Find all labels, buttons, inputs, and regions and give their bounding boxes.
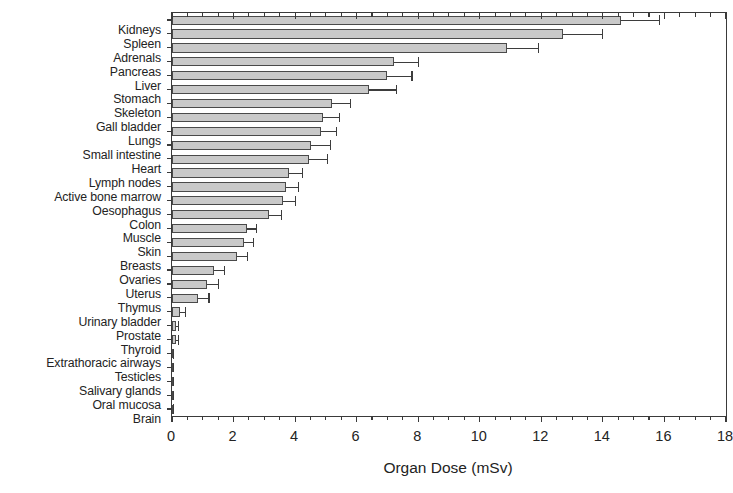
x-axis-top-tick (418, 13, 419, 19)
x-axis-minor-tick (448, 416, 449, 420)
error-bar-line (214, 270, 225, 271)
x-axis-top-tick (279, 13, 280, 17)
error-bar-cap (224, 266, 225, 276)
error-bar-cap (298, 182, 299, 192)
x-axis-minor-tick (218, 416, 219, 420)
x-axis-major-tick (479, 416, 480, 422)
x-axis-top-tick (495, 13, 496, 17)
x-axis-major-tick (664, 416, 665, 422)
category-label: Extrathoracic airways (46, 357, 161, 370)
error-bar-cap (336, 127, 337, 137)
bar-row (172, 221, 726, 236)
error-bar-cap (659, 15, 660, 25)
x-axis-minor-tick (710, 416, 711, 420)
error-bar-line (269, 215, 281, 216)
bar (172, 43, 507, 52)
error-bar-line (323, 117, 340, 118)
x-axis-top-tick (371, 13, 372, 17)
error-bar-line (507, 48, 538, 49)
error-bar-cap (538, 43, 539, 53)
x-axis-minor-tick (187, 416, 188, 420)
x-axis-top-tick (710, 13, 711, 17)
x-axis-tick-label: 16 (655, 428, 671, 444)
x-axis-tick-label: 10 (471, 428, 487, 444)
x-axis-minor-tick (202, 416, 203, 420)
x-axis-tick-label: 18 (717, 428, 733, 444)
bar-row (172, 194, 726, 209)
category-label: Thyroid (121, 344, 161, 357)
error-bar-cap (281, 210, 282, 220)
bar (172, 16, 621, 25)
error-bar-line (237, 256, 248, 257)
x-axis-major-tick (171, 416, 172, 422)
x-axis-top-tick (479, 13, 480, 19)
error-bar-cap (218, 279, 219, 289)
bar (172, 210, 269, 219)
category-label: Thymus (118, 302, 161, 315)
category-label: Lymph nodes (89, 177, 161, 190)
x-axis-minor-tick (264, 416, 265, 420)
error-bar-cap (330, 140, 331, 150)
bar (172, 29, 563, 38)
category-label: Muscle (123, 232, 161, 245)
category-label: Breasts (120, 260, 161, 273)
category-axis-labels: KidneysSpleenAdrenalsPancreasLiverStomac… (0, 12, 168, 415)
bar-row (172, 41, 726, 56)
error-bar-cap (173, 363, 174, 373)
x-axis-top-tick (464, 13, 465, 17)
error-bar-cap (253, 238, 254, 248)
x-axis-top-tick (387, 13, 388, 17)
error-bar-cap (173, 349, 174, 359)
x-axis-minor-tick (341, 416, 342, 420)
category-label: Oesophagus (92, 205, 161, 218)
error-bar-line (309, 159, 327, 160)
bar (172, 99, 332, 108)
x-axis-minor-tick (648, 416, 649, 420)
organ-dose-bar-chart: KidneysSpleenAdrenalsPancreasLiverStomac… (0, 0, 733, 493)
x-axis-top-tick (648, 13, 649, 17)
x-axis-tick-label: 0 (167, 428, 175, 444)
error-bar-cap (247, 252, 248, 262)
bar-row (172, 374, 726, 389)
x-axis-top-tick (341, 13, 342, 17)
x-axis-top-tick (218, 13, 219, 17)
category-label: Liver (135, 80, 161, 93)
x-axis-minor-tick (248, 416, 249, 420)
category-label: Adrenals (113, 52, 161, 65)
x-axis-minor-tick (679, 416, 680, 420)
plot-area (171, 12, 727, 417)
bar (172, 113, 323, 122)
x-axis-minor-tick (402, 416, 403, 420)
category-label: Lungs (128, 135, 161, 148)
x-axis-top-tick (233, 13, 234, 19)
x-axis-top-tick (664, 13, 665, 19)
error-bar-line (286, 187, 298, 188)
error-bar-line (311, 145, 331, 146)
bar-row (172, 82, 726, 97)
error-bar-cap (178, 335, 179, 345)
x-axis-minor-tick (618, 416, 619, 420)
x-axis-major-tick (356, 416, 357, 422)
bar-row (172, 110, 726, 125)
error-bar-cap (411, 71, 412, 81)
x-axis-tick-label: 14 (594, 428, 610, 444)
x-axis-top-tick (433, 13, 434, 17)
x-axis-tick-label: 8 (413, 428, 421, 444)
error-bar-cap (302, 168, 303, 178)
category-label: Ovaries (119, 274, 161, 287)
error-bar-cap (602, 29, 603, 39)
error-bar-line (198, 298, 209, 299)
x-axis-top-tick (248, 13, 249, 17)
x-axis-top-tick (402, 13, 403, 17)
bar (172, 155, 309, 164)
category-label: Prostate (116, 330, 161, 343)
bar (172, 71, 387, 80)
error-bar-line (283, 201, 295, 202)
error-bar-cap (295, 196, 296, 206)
category-label: Urinary bladder (78, 316, 161, 329)
category-label: Skeleton (114, 107, 161, 120)
error-bar-cap (396, 85, 397, 95)
bar (172, 127, 321, 136)
bar (172, 141, 311, 150)
x-axis-major-tick (602, 416, 603, 422)
